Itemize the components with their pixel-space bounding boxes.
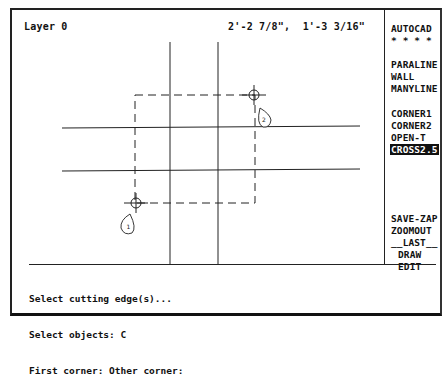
autocad-screen: Layer 0 2'-2 7/8", 1'-3 3/16" 1 <box>10 8 442 316</box>
menu-item-edit[interactable]: EDIT <box>398 261 421 272</box>
menu-item-wall[interactable]: WALL <box>391 71 414 82</box>
menu-item-manyline[interactable]: MANYLINE <box>391 83 438 94</box>
command-area-divider <box>29 264 436 265</box>
menu-item-draw[interactable]: DRAW <box>398 249 421 260</box>
command-line[interactable]: Select cutting edge(s)... Select objects… <box>29 269 183 378</box>
svg-text:1: 1 <box>127 223 131 230</box>
command-history-line-2: Select objects: C <box>29 329 183 341</box>
menu-item-corner2[interactable]: CORNER2 <box>391 120 432 131</box>
menu-item-open-t[interactable]: OPEN-T <box>391 132 426 143</box>
menu-item-stars[interactable]: * * * * <box>391 35 432 46</box>
menu-item-autocad[interactable]: AUTOCAD <box>391 23 432 34</box>
callout-2-icon: 2 <box>259 108 271 127</box>
command-prompt[interactable]: First corner: Other corner: <box>29 365 183 377</box>
menu-item-cross2-5[interactable]: CROSS2.5 <box>390 144 439 155</box>
wall-line-horizontal-1[interactable] <box>62 126 360 128</box>
menu-item-zoomout[interactable]: ZOOMOUT <box>391 225 432 236</box>
screen-menu: AUTOCAD * * * * PARALINE WALL MANYLINE C… <box>384 10 442 264</box>
wall-line-horizontal-2[interactable] <box>62 169 360 171</box>
pick-point-2-icon <box>242 85 266 105</box>
menu-item-save-zap[interactable]: SAVE-ZAP <box>391 213 438 224</box>
crossing-window <box>135 95 255 203</box>
menu-item-paraline[interactable]: PARALINE <box>391 59 438 70</box>
drawing-area[interactable]: 1 2 <box>12 10 384 264</box>
command-history-line-1: Select cutting edge(s)... <box>29 293 183 305</box>
menu-item-last[interactable]: __LAST__ <box>391 237 438 248</box>
callout-1-icon: 1 <box>121 214 134 234</box>
pick-point-1-icon <box>124 193 148 213</box>
menu-item-corner1[interactable]: CORNER1 <box>391 108 432 119</box>
svg-text:2: 2 <box>262 116 266 123</box>
